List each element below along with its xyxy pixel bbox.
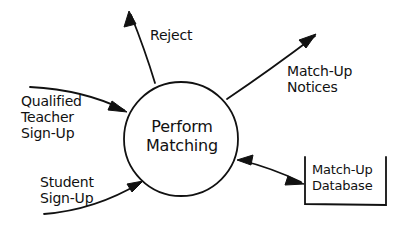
process-label-line2: Matching [146, 136, 218, 155]
process-label: PerformMatching [142, 117, 222, 155]
student-signup-label: StudentSign-Up [40, 174, 94, 206]
teacher-signup-label: QualifiedTeacherSign-Up [21, 93, 82, 141]
reject-flow-arrow [124, 11, 155, 83]
database-flow-arrow [237, 155, 304, 185]
teacher-label-line1: Qualified [21, 93, 82, 109]
database-label-line1: Match-Up [312, 162, 373, 177]
diagram-canvas: PerformMatching Reject Match-UpNotices Q… [0, 0, 405, 227]
process-label-line1: Perform [151, 117, 212, 136]
database-label-line2: Database [312, 178, 372, 193]
database-label: Match-UpDatabase [312, 162, 373, 194]
notices-label-line1: Match-Up [287, 63, 352, 79]
reject-label: Reject [150, 28, 192, 42]
student-label-line2: Sign-Up [40, 190, 93, 206]
teacher-label-line3: Sign-Up [21, 125, 74, 141]
teacher-label-line2: Teacher [21, 109, 74, 125]
student-label-line1: Student [40, 174, 94, 190]
notices-label-line2: Notices [287, 79, 338, 95]
notices-label: Match-UpNotices [287, 63, 352, 95]
